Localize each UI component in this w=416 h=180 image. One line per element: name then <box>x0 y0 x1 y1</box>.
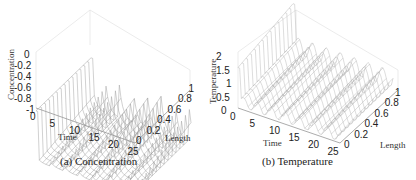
temperature-panel: Temperature 00.511.52 0510152025 00.20.4… <box>208 0 416 180</box>
y-tick: 0 <box>136 136 142 146</box>
x-axis-label: Time <box>58 132 77 142</box>
y-tick: 0.2 <box>147 126 161 136</box>
x-tick: 15 <box>89 133 100 143</box>
y-axis-label: Length <box>165 133 191 143</box>
z-tick: -0.8 <box>14 94 31 104</box>
temperature-surface-plot <box>208 0 416 180</box>
x-tick: 0 <box>230 112 236 122</box>
z-tick: 2 <box>216 52 222 62</box>
x-tick: 20 <box>308 140 319 150</box>
y-tick: 0.2 <box>354 130 368 140</box>
y-tick: 0.4 <box>157 115 171 125</box>
x-tick: 20 <box>108 140 119 150</box>
z-tick: 0 <box>24 50 30 60</box>
z-tick: 1.5 <box>216 66 230 76</box>
x-tick: 10 <box>269 126 280 136</box>
y-tick: 1 <box>395 88 401 98</box>
x-tick: 15 <box>289 133 300 143</box>
y-tick: 0.6 <box>168 105 182 115</box>
y-tick: 0 <box>344 140 350 150</box>
y-tick: 0.8 <box>385 98 399 108</box>
z-tick: 0.5 <box>216 93 230 103</box>
concentration-panel: Concentration 0-0.2-0.4-0.6-0.8-1 051015… <box>0 0 208 180</box>
z-tick: 0 <box>221 106 227 116</box>
z-tick: 1 <box>226 79 232 89</box>
y-tick: 0.6 <box>375 109 389 119</box>
x-tick: 5 <box>50 119 56 129</box>
z-tick: -0.6 <box>14 83 31 93</box>
x-tick: 5 <box>250 119 256 129</box>
x-tick: 0 <box>30 112 36 122</box>
y-axis-label: Length <box>380 140 406 150</box>
y-tick: 0.4 <box>364 119 378 129</box>
y-tick: 0.8 <box>178 94 192 104</box>
x-axis-label: Time <box>263 138 282 148</box>
z-tick: -0.2 <box>14 61 31 71</box>
y-tick: 1 <box>189 84 195 94</box>
z-tick: -0.4 <box>14 72 31 82</box>
caption-b: (b) Temperature <box>262 155 333 167</box>
caption-a: (a) Concentration <box>60 155 137 167</box>
